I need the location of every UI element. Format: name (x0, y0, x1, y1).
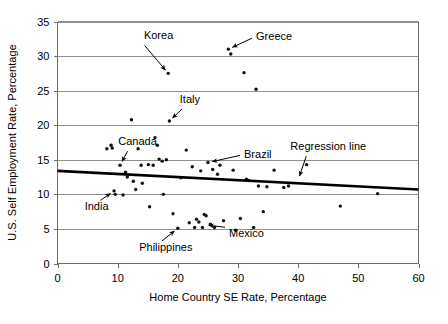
annotation-label-india: India (85, 200, 110, 212)
data-point (148, 205, 151, 208)
y-tick-label-10: 10 (37, 188, 49, 200)
leader-line-philippines (162, 231, 175, 241)
data-point (376, 192, 379, 195)
x-axis-title: Home Country SE Rate, Percentage (149, 291, 326, 303)
data-point (257, 184, 260, 187)
data-point (136, 147, 139, 150)
annotation-label-canada: Canada (118, 135, 157, 147)
data-point (227, 47, 230, 50)
y-tick-label-5: 5 (43, 223, 49, 235)
data-point (105, 147, 108, 150)
data-point (112, 189, 115, 192)
x-tick-label-10: 10 (112, 272, 124, 284)
annotation-label-italy: Italy (180, 93, 201, 105)
leader-line-canada (122, 151, 127, 161)
data-point (339, 204, 342, 207)
y-tick-label-30: 30 (37, 50, 49, 62)
x-tick-label-30: 30 (232, 272, 244, 284)
data-point (126, 175, 129, 178)
data-point (199, 169, 202, 172)
data-point (171, 212, 174, 215)
annotation-label-regression-line: Regression line (290, 140, 366, 152)
data-point (265, 185, 268, 188)
leader-line-italy (173, 109, 182, 118)
gridlines (58, 23, 419, 230)
x-tick-label-0: 0 (54, 272, 60, 284)
x-tick-label-60: 60 (412, 272, 424, 284)
data-point (239, 217, 242, 220)
annotation-label-korea: Korea (144, 29, 174, 41)
data-point (139, 164, 142, 167)
data-point (114, 193, 117, 196)
y-tick-label-25: 25 (37, 85, 49, 97)
data-point (141, 182, 144, 185)
annotation-label-mexico: Mexico (229, 227, 264, 239)
data-point (282, 186, 285, 189)
data-point (167, 72, 170, 75)
data-point (160, 159, 163, 162)
x-tick-label-40: 40 (292, 272, 304, 284)
data-point (206, 161, 209, 164)
data-point (134, 188, 137, 191)
y-tick-label-15: 15 (37, 154, 49, 166)
data-point (287, 184, 290, 187)
data-point (242, 71, 245, 74)
data-point (201, 226, 204, 229)
data-point (188, 221, 191, 224)
data-point (162, 193, 165, 196)
annotation-labels: KoreaGreeceItalyCanadaBrazilRegression l… (85, 29, 366, 253)
data-point (147, 163, 150, 166)
data-point (272, 168, 275, 171)
data-point (151, 164, 154, 167)
data-point (168, 119, 171, 122)
leader-line-korea (145, 45, 166, 69)
data-point (132, 180, 135, 183)
leader-line-regression-line (300, 156, 307, 176)
data-point (185, 148, 188, 151)
data-point (197, 220, 200, 223)
data-point (222, 219, 225, 222)
y-tick-label-35: 35 (37, 16, 49, 28)
y-tick-label-0: 0 (43, 258, 49, 270)
x-tick-label-20: 20 (172, 272, 184, 284)
data-point (204, 214, 207, 217)
regression-line (58, 171, 419, 190)
data-point (118, 164, 121, 167)
annotation-label-philippines: Philippines (139, 241, 193, 253)
data-point (176, 227, 179, 230)
x-tick-label-50: 50 (352, 272, 364, 284)
data-point (218, 164, 221, 167)
chart-canvas: 051015202530350102030405060 KoreaGreeceI… (0, 0, 448, 324)
data-point (195, 218, 198, 221)
regression-line-path (58, 171, 419, 190)
y-tick-label-20: 20 (37, 119, 49, 131)
data-point (254, 88, 257, 91)
data-point (111, 146, 114, 149)
data-point (191, 165, 194, 168)
data-point (229, 52, 232, 55)
leader-line-greece (232, 38, 252, 47)
scatter-chart: 051015202530350102030405060 KoreaGreeceI… (0, 0, 448, 324)
data-point (165, 158, 168, 161)
data-point (130, 118, 133, 121)
data-point (157, 157, 160, 160)
data-point (262, 210, 265, 213)
data-point (216, 173, 219, 176)
annotation-label-greece: Greece (256, 30, 292, 42)
data-point (211, 168, 214, 171)
data-point (231, 168, 234, 171)
data-point (193, 226, 196, 229)
leader-line-mexico (209, 225, 225, 227)
tick-labels: 051015202530350102030405060 (37, 16, 424, 284)
y-axis-title: U.S. Self Employment Rate, Percentage (6, 44, 18, 240)
data-point (121, 193, 124, 196)
data-point (305, 163, 308, 166)
annotation-label-brazil: Brazil (244, 148, 272, 160)
